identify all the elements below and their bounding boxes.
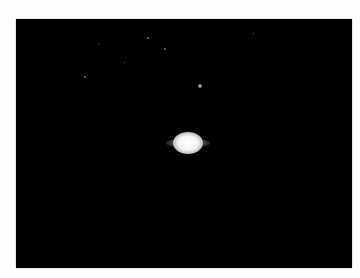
moon [198, 84, 202, 88]
faint-star [147, 37, 149, 39]
faint-star [124, 62, 125, 63]
saturn [173, 132, 203, 154]
faint-star [253, 33, 254, 34]
faint-star [98, 43, 99, 44]
faint-star [84, 76, 86, 78]
faint-star [164, 48, 166, 50]
